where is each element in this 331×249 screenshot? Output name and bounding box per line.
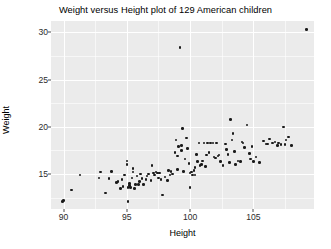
data-point [232, 132, 235, 135]
data-point [70, 189, 73, 192]
data-point [185, 137, 188, 140]
data-point [225, 148, 228, 151]
data-point [222, 164, 225, 167]
x-axis-tick-label: 95 [122, 212, 132, 222]
data-point [121, 178, 124, 181]
data-point [239, 160, 242, 163]
data-point [205, 154, 208, 157]
data-point [142, 183, 145, 186]
data-point [117, 180, 120, 183]
x-axis-tick-mark [63, 209, 64, 212]
gridline-major-horizontal [51, 32, 314, 33]
y-axis-tick-label: 25 [38, 75, 48, 85]
gridline-major-horizontal [51, 80, 314, 81]
data-point [141, 177, 144, 180]
data-point [174, 151, 177, 154]
data-point [104, 192, 107, 195]
data-point [200, 163, 203, 166]
data-point [175, 139, 178, 142]
data-point [258, 161, 261, 164]
data-point [290, 144, 293, 147]
x-axis-tick-mark [253, 209, 254, 212]
data-point [234, 163, 237, 166]
data-point [161, 194, 164, 197]
x-axis-tick-label: 90 [59, 212, 69, 222]
data-point [147, 173, 150, 176]
data-point [179, 46, 182, 49]
data-point [131, 177, 134, 180]
gridline-minor-vertical [95, 21, 96, 209]
y-axis-label: Weight [1, 106, 11, 134]
data-point [98, 177, 101, 180]
data-point [201, 160, 204, 163]
data-point [282, 126, 285, 129]
data-point [129, 186, 132, 189]
data-point [160, 178, 163, 181]
data-point [203, 142, 206, 145]
data-point [219, 160, 222, 163]
data-point [176, 155, 179, 158]
gridline-major-vertical [190, 21, 191, 209]
data-point [228, 161, 231, 164]
data-point [231, 139, 234, 142]
y-axis-tick-label: 20 [38, 122, 48, 132]
gridline-minor-horizontal [51, 103, 314, 104]
data-point [180, 149, 183, 152]
data-point [224, 143, 227, 146]
data-point [255, 156, 258, 159]
data-point [176, 168, 179, 171]
data-point [136, 175, 139, 178]
data-point [79, 174, 82, 177]
data-point [243, 146, 246, 149]
gridline-major-vertical [127, 21, 128, 209]
data-point [266, 143, 269, 146]
data-point [150, 179, 153, 182]
data-point [127, 200, 130, 203]
gridline-major-horizontal [51, 174, 314, 175]
data-point [122, 185, 125, 188]
data-point [133, 187, 136, 190]
data-point [242, 142, 245, 145]
data-point [280, 143, 283, 146]
data-point [252, 160, 255, 163]
y-axis-tick-label: 30 [38, 27, 48, 37]
data-point [262, 140, 265, 143]
x-axis-tick-label: 105 [246, 212, 260, 222]
data-point [198, 142, 201, 145]
data-point [189, 186, 192, 189]
data-point [151, 164, 154, 167]
data-point [274, 141, 277, 144]
gridline-major-vertical [64, 21, 65, 209]
data-point [132, 167, 135, 170]
data-point [145, 178, 148, 181]
x-axis-label: Height [51, 228, 314, 238]
data-point [229, 118, 232, 121]
gridline-major-vertical [253, 21, 254, 209]
y-axis-tick-mark [48, 79, 51, 80]
data-point [182, 170, 185, 173]
data-point [188, 162, 191, 165]
page-title: Weight versus Height plot of 129 America… [0, 5, 331, 15]
y-axis-tick-mark [48, 126, 51, 127]
data-point [196, 160, 199, 163]
data-point [180, 144, 183, 147]
data-point [233, 150, 236, 153]
data-point [108, 177, 111, 180]
x-axis-tick-mark [126, 209, 127, 212]
data-point [62, 199, 65, 202]
y-axis-tick-mark [48, 32, 51, 33]
data-point [166, 179, 169, 182]
data-point [215, 142, 218, 145]
data-point [204, 165, 207, 168]
x-axis-tick-mark [190, 209, 191, 212]
data-point [186, 147, 189, 150]
data-point [276, 144, 279, 147]
data-point [184, 158, 187, 161]
data-point [212, 142, 215, 145]
data-point [248, 152, 251, 155]
data-point [193, 169, 196, 172]
gridline-minor-horizontal [51, 198, 314, 199]
scatter-plot-figure: Weight versus Height plot of 129 America… [0, 0, 331, 249]
data-point [128, 182, 131, 185]
data-point [305, 28, 308, 31]
